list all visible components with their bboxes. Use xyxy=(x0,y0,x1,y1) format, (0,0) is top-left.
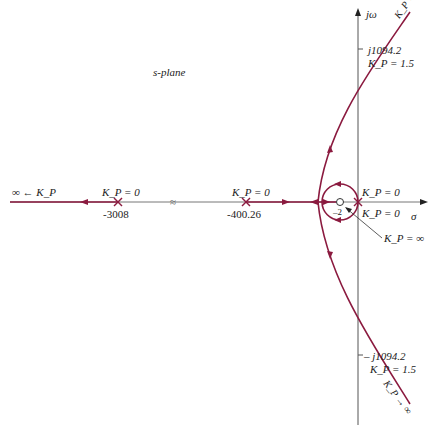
upper-crossing-label: j1094.2 xyxy=(368,44,401,56)
real-axis-label: σ xyxy=(411,210,416,222)
pole-gain-label-3008: K_P = 0 xyxy=(102,186,140,198)
arrow-icon xyxy=(80,199,88,205)
pole-value-3008: -3008 xyxy=(103,208,129,220)
arrow-icon xyxy=(327,251,333,259)
arrow-icon xyxy=(323,199,330,205)
real-axis-arrow-icon xyxy=(420,199,428,205)
lower-gain-label: K_P = 1.5 xyxy=(370,363,416,375)
zero-marker xyxy=(337,199,344,206)
arrow-icon xyxy=(310,199,318,205)
origin-gain-bottom: K_P = 0 xyxy=(362,207,400,219)
pole-gain-label-400: K_P = 0 xyxy=(232,186,270,198)
upper-gain-label: K_P = 1.5 xyxy=(368,57,414,69)
origin-gain-top: K_P = 0 xyxy=(362,186,400,198)
imag-axis-arrow-icon xyxy=(355,8,361,16)
pole-value-400: -400.26 xyxy=(227,208,261,220)
zero-gain-label: K_P = ∞ xyxy=(384,232,424,244)
arrow-icon xyxy=(282,199,290,205)
imag-axis-label: jω xyxy=(366,8,377,20)
s-plane-label: s-plane xyxy=(153,66,185,78)
left-infinity-label: ∞ ← K_P xyxy=(12,186,56,198)
arrow-icon xyxy=(327,145,333,153)
svg-text:≈: ≈ xyxy=(170,196,176,208)
arrow-icon xyxy=(334,181,341,187)
zero-value: –2 xyxy=(333,206,342,218)
lower-crossing-label: – j1094.2 xyxy=(364,350,406,362)
